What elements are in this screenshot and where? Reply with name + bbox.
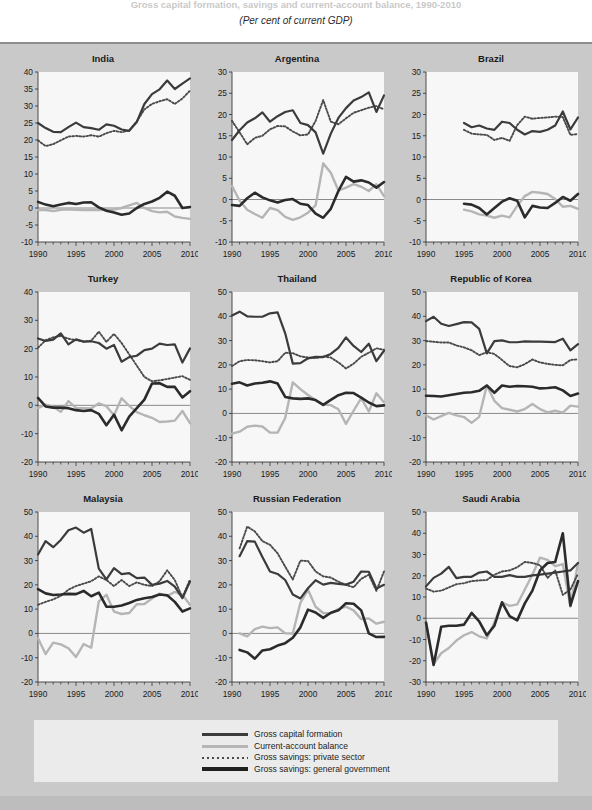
y-tick-label: 30 — [24, 101, 34, 111]
y-tick-label: 10 — [412, 384, 422, 394]
x-tick-label: 1995 — [455, 249, 474, 259]
x-tick-label: 2010 — [569, 249, 586, 259]
legend-item-gross-savings-general-government: Gross savings: general government — [202, 763, 390, 775]
legend-line-icon-gsg — [202, 764, 248, 775]
y-tick-label: 0 — [28, 203, 33, 213]
y-tick-label: 40 — [412, 528, 422, 538]
figure-header: Gross capital formation, savings and cur… — [0, 0, 592, 27]
y-tick-label: 10 — [412, 152, 422, 162]
y-tick-label: 0 — [222, 195, 227, 205]
y-tick-label: 40 — [218, 311, 228, 321]
panel-plot: -10-505101520253019901995200020052010 — [396, 66, 586, 272]
y-tick-label: 15 — [24, 152, 34, 162]
y-tick-label: 20 — [24, 580, 34, 590]
x-tick-label: 2010 — [181, 249, 198, 259]
figure-footer-strip — [0, 796, 592, 810]
chart-panel-saudi-arabia: Saudi Arabia-30-20-100102030405019901995… — [396, 492, 586, 712]
y-tick-label: -10 — [215, 653, 227, 663]
panel-title: Malaysia — [8, 492, 198, 506]
x-tick-label: 2005 — [531, 469, 550, 479]
x-tick-label: 1995 — [67, 689, 86, 699]
panel-plot: -20-100102030405019901995200020052010 — [8, 506, 198, 712]
legend-item-gross-capital-formation: Gross capital formation — [202, 728, 390, 740]
y-tick-label: -10 — [215, 237, 227, 247]
y-tick-label: 40 — [24, 531, 34, 541]
legend-item-current-account-balance: Current-account balance — [202, 740, 390, 752]
figure-title: Gross capital formation, savings and cur… — [0, 0, 592, 10]
y-tick-label: 15 — [412, 131, 422, 141]
y-tick-label: 25 — [24, 118, 34, 128]
chart-panel-republic-of-korea: Republic of Korea-20-1001020304050199019… — [396, 272, 586, 492]
legend-items: Gross capital formation Current-account … — [202, 728, 390, 774]
y-tick-label: 20 — [24, 344, 34, 354]
x-tick-label: 2010 — [375, 249, 392, 259]
y-tick-label: -20 — [409, 457, 421, 467]
x-tick-label: 2005 — [531, 249, 550, 259]
y-tick-label: 20 — [218, 110, 228, 120]
y-tick-label: 30 — [412, 67, 422, 77]
y-tick-label: -10 — [409, 433, 421, 443]
x-tick-label: 1990 — [223, 249, 242, 259]
y-tick-label: 30 — [218, 336, 228, 346]
y-tick-label: 30 — [412, 336, 422, 346]
y-tick-label: 20 — [218, 580, 228, 590]
x-tick-label: 2000 — [105, 469, 124, 479]
figure-subtitle: (Per cent of current GDP) — [0, 15, 592, 27]
y-tick-label: 50 — [218, 287, 228, 297]
y-tick-label: 0 — [222, 408, 227, 418]
x-tick-label: 2005 — [337, 689, 356, 699]
y-tick-label: 20 — [24, 135, 34, 145]
legend-label-gsg: Gross savings: general government — [254, 764, 390, 774]
y-tick-label: -5 — [414, 216, 422, 226]
y-tick-label: 30 — [412, 550, 422, 560]
y-tick-label: -10 — [215, 433, 227, 443]
y-tick-label: 40 — [412, 311, 422, 321]
legend-line-icon-cab — [202, 741, 248, 752]
y-tick-label: 30 — [24, 556, 34, 566]
y-tick-label: 10 — [218, 604, 228, 614]
plot-background — [426, 512, 578, 682]
x-tick-label: 2010 — [375, 469, 392, 479]
y-tick-label: 25 — [412, 88, 422, 98]
panel-title: India — [8, 52, 198, 66]
x-tick-label: 2000 — [493, 249, 512, 259]
x-tick-label: 2010 — [375, 689, 392, 699]
x-tick-label: 2005 — [143, 469, 162, 479]
y-tick-label: 50 — [24, 507, 34, 517]
x-tick-label: 2005 — [531, 689, 550, 699]
y-tick-label: 5 — [416, 173, 421, 183]
x-tick-label: 1995 — [261, 249, 280, 259]
y-tick-label: -20 — [215, 457, 227, 467]
plot-background — [38, 292, 190, 462]
y-tick-label: 0 — [222, 628, 227, 638]
panel-title: Brazil — [396, 52, 586, 66]
y-tick-label: 20 — [218, 360, 228, 370]
x-tick-label: 1995 — [261, 689, 280, 699]
x-tick-label: 1990 — [223, 469, 242, 479]
x-tick-label: 1990 — [29, 689, 48, 699]
x-tick-label: 2005 — [143, 689, 162, 699]
legend-label-gcf: Gross capital formation — [254, 729, 342, 739]
y-tick-label: 10 — [412, 592, 422, 602]
x-tick-label: 1995 — [455, 689, 474, 699]
x-tick-label: 2000 — [493, 689, 512, 699]
x-tick-label: 1990 — [417, 249, 436, 259]
chart-panel-thailand: Thailand-20-1001020304050199019952000200… — [202, 272, 392, 492]
x-tick-label: 1995 — [67, 249, 86, 259]
y-tick-label: 0 — [416, 613, 421, 623]
y-tick-label: 10 — [24, 372, 34, 382]
x-tick-label: 1990 — [417, 689, 436, 699]
panel-title: Republic of Korea — [396, 272, 586, 286]
y-tick-label: 30 — [218, 556, 228, 566]
panel-title: Thailand — [202, 272, 392, 286]
chart-panel-turkey: Turkey-20-100102030401990199520002005201… — [8, 272, 198, 492]
y-tick-label: -10 — [21, 237, 33, 247]
y-tick-label: 0 — [416, 408, 421, 418]
x-tick-label: 2010 — [569, 469, 586, 479]
y-tick-label: 40 — [24, 287, 34, 297]
y-tick-label: 0 — [28, 400, 33, 410]
panel-plot: -10-505101520253019901995200020052010 — [202, 66, 392, 272]
x-tick-label: 2010 — [569, 689, 586, 699]
chart-panel-malaysia: Malaysia-20-1001020304050199019952000200… — [8, 492, 198, 712]
y-tick-label: -20 — [215, 677, 227, 687]
